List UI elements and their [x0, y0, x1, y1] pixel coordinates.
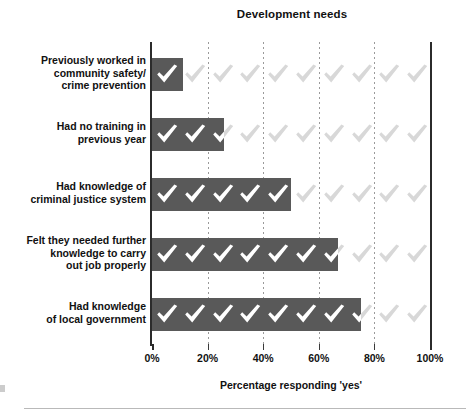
check-mark-icon	[237, 121, 263, 147]
check-mark-icon	[210, 301, 236, 327]
bar-row[interactable]	[152, 238, 430, 271]
check-mark-icon	[293, 241, 319, 267]
check-mark-icon	[404, 301, 430, 327]
check-mark-icon	[265, 181, 291, 207]
check-mark-icon	[376, 181, 402, 207]
page-rule	[24, 408, 466, 409]
check-mark-icon	[321, 61, 347, 87]
check-mark-icon	[376, 301, 402, 327]
category-label-line: criminal justice system	[6, 193, 146, 206]
x-tick-label: 80%	[344, 352, 404, 364]
bar-fill[interactable]	[152, 58, 183, 91]
check-mark-icon	[404, 121, 430, 147]
category-axis-labels: Previously worked incommunity safety/cri…	[4, 44, 146, 344]
check-mark-icon	[182, 241, 208, 267]
check-mark-icon	[376, 61, 402, 87]
check-mark-icon	[210, 61, 236, 87]
check-mark-icon	[293, 121, 319, 147]
bar-row[interactable]	[152, 58, 430, 91]
check-mark-icon	[182, 61, 208, 87]
chart-title: Development needs	[152, 8, 432, 20]
check-mark-icon	[349, 121, 375, 147]
check-mark-icon	[349, 61, 375, 87]
bar-row[interactable]	[152, 118, 430, 151]
bar-row[interactable]	[152, 178, 430, 211]
check-mark-icon	[376, 241, 402, 267]
category-label-line: Had knowledge	[6, 300, 146, 313]
category-label-line: Had no training in	[6, 120, 146, 133]
category-label-line: Had knowledge of	[6, 180, 146, 193]
bar-fill[interactable]	[152, 118, 224, 151]
category-label-line: of local government	[6, 313, 146, 326]
category-label-line: out job properly	[6, 259, 146, 272]
check-mark-icon	[182, 301, 208, 327]
category-label-line: Previously worked in	[6, 54, 146, 67]
bar-row[interactable]	[152, 298, 430, 331]
check-mark-icon	[237, 241, 263, 267]
category-label-line: crime prevention	[6, 79, 146, 92]
category-label-line: Felt they needed further	[6, 234, 146, 247]
tickmark-40	[263, 344, 264, 350]
check-mark-icon	[349, 301, 361, 327]
bar-fill[interactable]	[152, 178, 291, 211]
check-mark-icon	[210, 181, 236, 207]
tickmark-100	[430, 344, 432, 350]
category-label-line: previous year	[6, 133, 146, 146]
x-tick-label: 0%	[122, 352, 182, 364]
check-mark-icon	[321, 301, 347, 327]
check-mark-icon	[154, 301, 180, 327]
category-label: Had knowledge ofcriminal justice system	[6, 180, 146, 205]
category-label: Previously worked incommunity safety/cri…	[6, 54, 146, 92]
x-tick-label: 40%	[233, 352, 293, 364]
category-label-line: knowledge to carry	[6, 247, 146, 260]
right-axis-line	[430, 42, 432, 346]
check-mark-icon	[293, 181, 319, 207]
check-mark-icon	[154, 61, 180, 87]
check-mark-icon	[321, 121, 347, 147]
check-mark-icon	[182, 61, 183, 87]
x-tick-label: 20%	[178, 352, 238, 364]
plot-area	[152, 44, 430, 344]
check-mark-icon	[265, 121, 291, 147]
check-mark-icon	[349, 241, 375, 267]
check-mark-icon	[154, 241, 180, 267]
tickmark-60	[319, 344, 320, 350]
check-mark-icon	[293, 61, 319, 87]
check-mark-icon	[237, 181, 263, 207]
check-mark-icon	[404, 181, 430, 207]
x-tick-label: 60%	[289, 352, 349, 364]
category-label-line: community safety/	[6, 67, 146, 80]
category-label: Had knowledgeof local government	[6, 300, 146, 325]
check-mark-icon	[210, 121, 225, 147]
bar-fill[interactable]	[152, 238, 338, 271]
check-mark-icon	[154, 181, 180, 207]
category-label: Had no training inprevious year	[6, 120, 146, 145]
check-mark-icon	[237, 301, 263, 327]
row-check-strip	[152, 58, 430, 91]
check-mark-icon	[182, 181, 208, 207]
x-tick-label: 100%	[400, 352, 460, 364]
check-mark-icon	[404, 241, 430, 267]
bar-fill[interactable]	[152, 298, 361, 331]
tickmark-20	[208, 344, 209, 350]
check-mark-icon	[237, 61, 263, 87]
check-mark-icon	[182, 121, 208, 147]
tickmark-80	[374, 344, 375, 350]
check-mark-icon	[265, 241, 291, 267]
check-mark-icon	[404, 61, 430, 87]
check-mark-icon	[349, 181, 375, 207]
check-mark-icon	[265, 61, 291, 87]
check-mark-icon	[321, 241, 338, 267]
check-mark-icon	[321, 181, 347, 207]
tickmark-0	[152, 344, 154, 350]
category-label: Felt they needed furtherknowledge to car…	[6, 234, 146, 272]
check-mark-icon	[265, 301, 291, 327]
check-mark-icon	[154, 121, 180, 147]
check-mark-icon	[376, 121, 402, 147]
check-mark-icon	[293, 301, 319, 327]
bar-chart: Development needs Previously worked inco…	[0, 0, 466, 418]
check-mark-icon	[210, 241, 236, 267]
page-edge-artifact	[0, 385, 5, 392]
x-axis-title: Percentage responding 'yes'	[152, 379, 430, 391]
